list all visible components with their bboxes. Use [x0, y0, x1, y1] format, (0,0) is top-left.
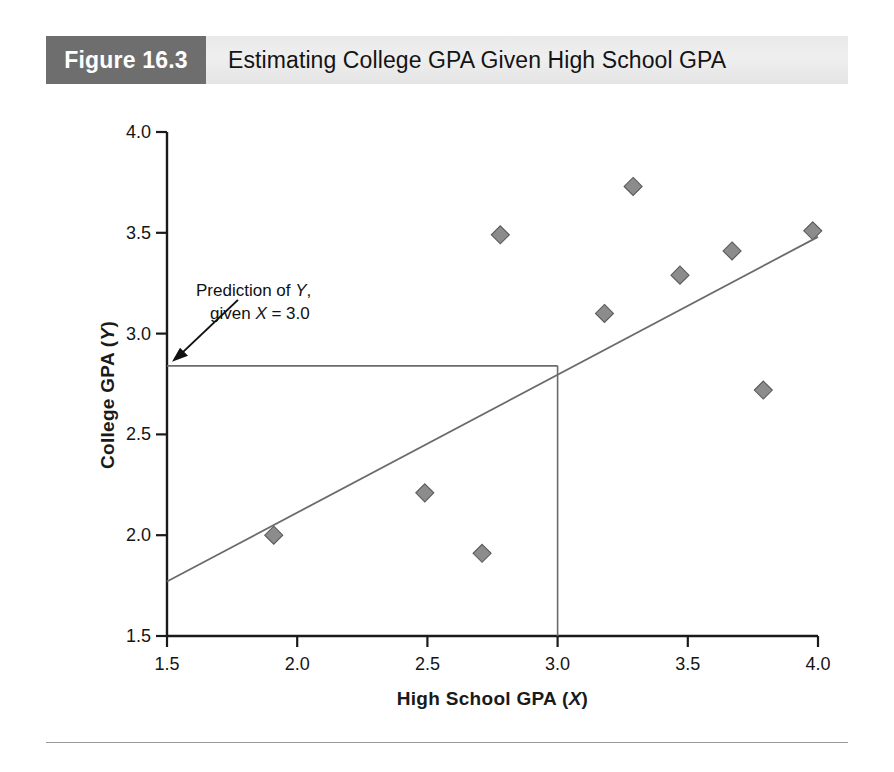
y-axis-title: College GPA (Y)	[97, 265, 119, 525]
y-axis-tick-label: 2.0	[126, 525, 151, 546]
figure-caption: Estimating College GPA Given High School…	[206, 36, 848, 84]
x-axis-tick-label: 1.5	[154, 654, 179, 675]
x-axis-title: High School GPA (X)	[167, 688, 818, 710]
data-point-marker	[473, 544, 491, 562]
y-axis-title-variable: Y	[97, 328, 118, 341]
data-point-marker	[491, 226, 509, 244]
x-axis-title-suffix: )	[582, 688, 589, 709]
annotation-line-2: given X = 3.0	[196, 303, 311, 326]
data-point-marker	[624, 177, 642, 195]
y-axis-tick-label: 1.5	[126, 626, 151, 647]
data-point-marker	[416, 484, 434, 502]
annotation-line-2-variable: X	[255, 304, 266, 323]
x-axis-tick-label: 3.5	[675, 654, 700, 675]
x-axis-title-variable: X	[569, 688, 582, 709]
figure-bottom-rule	[46, 742, 848, 743]
data-point-marker	[723, 242, 741, 260]
figure-number-badge: Figure 16.3	[46, 36, 206, 84]
data-point-marker	[671, 266, 689, 284]
y-axis-tick-label: 3.0	[126, 323, 151, 344]
data-point-marker	[804, 222, 822, 240]
annotation-line-2-prefix: given	[210, 304, 255, 323]
data-point-marker	[595, 304, 613, 322]
y-axis-title-suffix: )	[97, 321, 118, 328]
prediction-annotation: Prediction of Y, given X = 3.0	[196, 280, 311, 326]
axis-ticks	[156, 132, 818, 647]
figure-container: Figure 16.3 Estimating College GPA Given…	[0, 0, 894, 772]
y-axis-tick-label: 4.0	[126, 122, 151, 143]
x-axis-tick-label: 2.0	[285, 654, 310, 675]
chart-plot-area: College GPA (Y) High School GPA (X) 1.52…	[0, 84, 894, 724]
annotation-line-1-prefix: Prediction of	[196, 281, 295, 300]
y-axis-title-prefix: College GPA (	[97, 341, 118, 469]
annotation-line-2-suffix: = 3.0	[267, 304, 310, 323]
x-axis-title-prefix: High School GPA (	[397, 688, 569, 709]
y-axis-tick-label: 3.5	[126, 222, 151, 243]
x-axis-tick-label: 2.5	[415, 654, 440, 675]
annotation-line-1-suffix: ,	[307, 281, 312, 300]
annotation-line-1: Prediction of Y,	[196, 281, 311, 300]
annotation-line-1-variable: Y	[295, 281, 306, 300]
data-series	[265, 177, 822, 562]
y-axis-tick-label: 2.5	[126, 424, 151, 445]
data-point-marker	[754, 381, 772, 399]
x-axis-tick-label: 3.0	[545, 654, 570, 675]
x-axis-tick-label: 4.0	[805, 654, 830, 675]
figure-title-bar: Figure 16.3 Estimating College GPA Given…	[46, 36, 848, 84]
